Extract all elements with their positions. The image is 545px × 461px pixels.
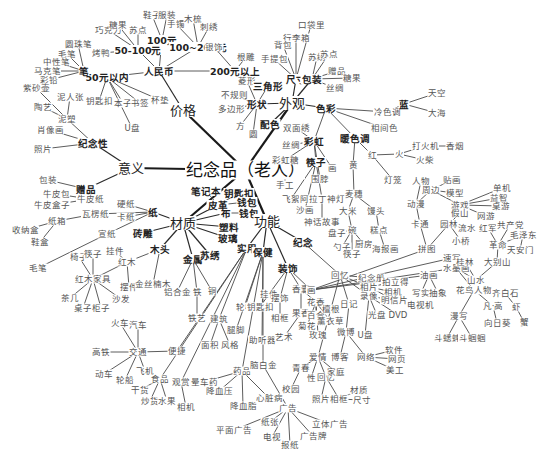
node-zhaopian1: 照片 [34, 144, 52, 154]
node-maisui: 麦穗 [345, 189, 363, 199]
node-chaji: 茶几 [61, 293, 79, 303]
node-suliao: 塑料 [219, 222, 239, 233]
node-wangyou: 网游 [477, 211, 495, 221]
node-taoci: 砖雕 [133, 228, 153, 239]
node-panzi: 盘子 [328, 228, 346, 238]
edge-baojian-tuijiao [236, 252, 263, 330]
node-rmb: 人民币 [144, 66, 174, 77]
node-doukuai: 斗蟋蟀 [434, 333, 461, 343]
node-jiating: 家庭 [327, 367, 345, 377]
node-caihongtang: 彩虹糖 [272, 155, 299, 165]
node-bijiben: 笔记本 [191, 186, 221, 197]
node-zhizhang: 纸张 [261, 417, 279, 427]
node-duobian: 多边形 [218, 104, 245, 114]
node-waiguan: 外观 [279, 96, 305, 111]
node-xunyicao: 薰衣草 [317, 316, 344, 326]
node-jiangxuezhi: 降血脂 [230, 401, 257, 411]
node-tie: 铁 [193, 287, 202, 297]
node-wangluo: 网络 [357, 352, 375, 362]
node-haibao: 海报画 [372, 244, 399, 254]
node-hua2: 画 [307, 285, 316, 295]
node-xie: 蟹 [520, 317, 529, 327]
node-xiangrikui: 向日葵 [484, 318, 511, 328]
node-caizhi2: 材质 [350, 385, 368, 395]
node-gongchandang: 共产党 [497, 220, 524, 230]
node-tangguo2: 糖果 [343, 73, 361, 83]
node-xuanzhi: 宣纸 [98, 229, 116, 239]
node-yuanlin: 园林 [440, 219, 458, 229]
node-maobi2: 毛笔 [29, 263, 47, 273]
node-hongjun: 红军 [479, 223, 497, 233]
node-xiangjianse: 相间色 [371, 123, 398, 133]
node-dongche: 动车 [95, 369, 113, 379]
node-zhutingqi: 助听器 [249, 335, 276, 345]
node-dabieshan: 大别山 [484, 257, 511, 267]
node-xiangyan: 香烟 [446, 141, 464, 151]
node-nuansediao: 暖色调 [340, 133, 370, 144]
node-niupizhi: 牛皮纸 [77, 194, 104, 204]
node-moxing: 模型 [446, 188, 464, 198]
node-baozhuang2: 包装 [39, 175, 57, 185]
node-youhua: 油画 [420, 270, 438, 280]
node-kuaizi1: 筷子 [305, 157, 326, 168]
node-xinzangbing: 心脏病 [256, 393, 283, 403]
node-mingxinpian: 明信片 [381, 295, 408, 305]
node-xiangkuang1: 相框 [271, 313, 289, 323]
node-hua: 画 [328, 163, 337, 173]
node-suxiu: 苏绣 [200, 250, 220, 261]
node-huoche: 火车 [111, 318, 129, 328]
node-yishu: 艺术 [275, 332, 293, 342]
node-dami: 大米 [339, 206, 357, 216]
node-zhuoyou: 桌游 [492, 201, 510, 211]
node-denglong: 灯笼 [384, 175, 402, 185]
node-shougong: 手工 [276, 180, 294, 190]
node-p50: 50元以内 [85, 72, 128, 83]
node-tiezhi: 贴画 [443, 175, 461, 185]
node-qiche: 汽车 [129, 320, 147, 330]
node-luxiang: 录像 [360, 291, 378, 301]
node-gongneng: 功能 [254, 214, 280, 229]
node-kazhi: 卡纸 [117, 212, 135, 222]
node-nirenzhang: 泥人张 [57, 92, 84, 102]
node-chaohuo: 炒货 [141, 396, 159, 406]
node-buguize: 不规则 [221, 90, 248, 100]
node-xiangkuang2: 相框 [330, 394, 348, 404]
node-dongman: 动漫 [407, 199, 425, 209]
node-walengzhi: 瓦楞纸 [82, 209, 109, 219]
node-zengpin2: 赠品 [76, 184, 96, 195]
node-xiangji1: 相机 [177, 402, 195, 412]
node-guanggao: 广告 [279, 403, 297, 413]
node-zhaopian2: 照片 [312, 394, 330, 404]
node-boke: 博客 [331, 352, 349, 362]
node-zishahu: 紫砂壶 [23, 83, 50, 93]
node-maozedong: 毛泽东 [510, 230, 537, 240]
node-caihong: 彩虹 [303, 136, 324, 147]
node-zhuangshi: 装饰 [277, 263, 298, 274]
node-qibaishi: 齐白石 [492, 288, 519, 298]
node-kuaizi3: 筷子 [84, 249, 102, 259]
node-huochai: 火柴 [416, 155, 434, 165]
node-lunchuan: 轮船 [116, 375, 134, 385]
node-nisu: 泥塑 [58, 114, 76, 124]
node-jinian: 纪念 [293, 237, 313, 248]
node-xing: 性 [307, 373, 316, 383]
node-shounahe: 收纳盒 [12, 225, 39, 235]
node-mantou: 馒头 [367, 206, 385, 216]
node-baishi: 摆饰 [271, 293, 289, 303]
node-wan: 碗 [348, 225, 357, 235]
node-dvd: DVD [389, 310, 408, 320]
node-zhuozi: 桌子 [74, 303, 92, 313]
node-p50_100: 50-100元 [115, 45, 162, 56]
node-hongmujiaju: 红木家具 [75, 274, 111, 284]
node-tangguo1: 糖果 [109, 20, 127, 30]
node-zhoubian: 周边 [422, 185, 440, 195]
node-shenhua: 神话故事 [304, 217, 340, 227]
node-pige: 皮革 [207, 200, 228, 211]
node-mianji: 面积 [201, 340, 219, 350]
node-gaodian: 糕点 [370, 225, 388, 235]
node-benzi: 本子 [114, 98, 132, 108]
node-hongmu: 红木 [118, 257, 136, 267]
node-dianshiji: 电视机 [407, 300, 434, 310]
node-manxie: 漫写 [450, 311, 468, 321]
node-liushui: 流水 [458, 223, 476, 233]
